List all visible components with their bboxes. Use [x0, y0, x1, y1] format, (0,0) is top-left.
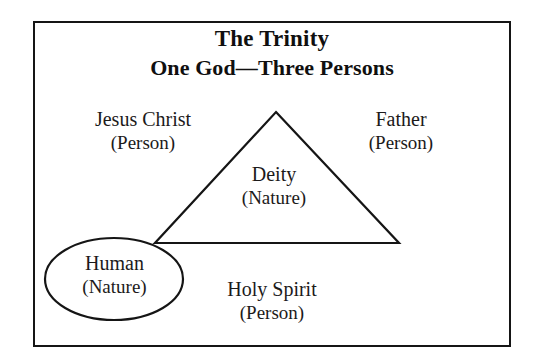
- label-holy-spirit-line-1: Holy Spirit: [192, 278, 352, 302]
- label-deity-line-2: (Nature): [212, 187, 336, 209]
- label-jesus-christ: Jesus Christ (Person): [63, 108, 223, 154]
- label-human-line-2: (Nature): [47, 276, 182, 298]
- label-human: Human (Nature): [47, 252, 182, 298]
- label-father-line-1: Father: [330, 108, 472, 132]
- diagram-title: The Trinity One God—Three Persons: [33, 26, 511, 81]
- label-holy-spirit-line-2: (Person): [192, 302, 352, 324]
- trinity-diagram: The Trinity One God—Three Persons Jesus …: [0, 0, 539, 364]
- label-jesus-christ-line-2: (Person): [63, 132, 223, 154]
- label-father: Father (Person): [330, 108, 472, 154]
- title-line-1: The Trinity: [33, 26, 511, 53]
- label-deity: Deity (Nature): [212, 163, 336, 209]
- label-human-line-1: Human: [47, 252, 182, 276]
- label-jesus-christ-line-1: Jesus Christ: [63, 108, 223, 132]
- label-father-line-2: (Person): [330, 132, 472, 154]
- label-holy-spirit: Holy Spirit (Person): [192, 278, 352, 324]
- title-line-2: One God—Three Persons: [33, 55, 511, 81]
- label-deity-line-1: Deity: [212, 163, 336, 187]
